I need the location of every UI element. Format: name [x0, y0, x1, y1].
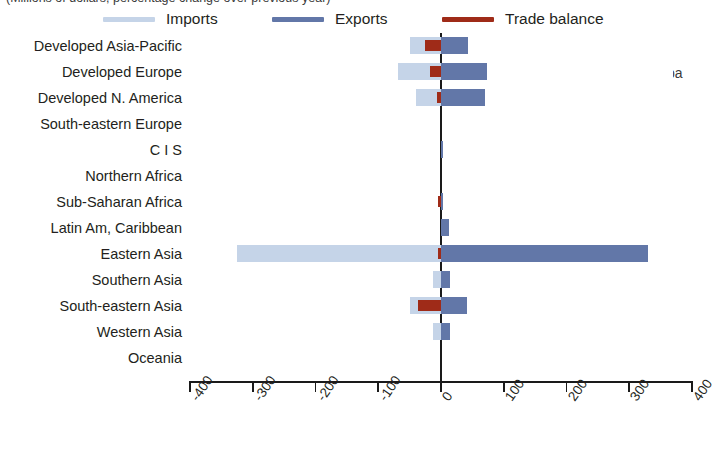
bar-exports — [441, 193, 443, 210]
bar-row — [186, 271, 703, 288]
value-axis: -400-300-200-1000100200300400 — [186, 381, 703, 449]
bar-trade-balance — [438, 248, 441, 259]
legend-item-trade-balance: Trade balance — [442, 7, 604, 31]
bar-exports — [441, 63, 487, 80]
axis-tick-label: 400 — [690, 377, 715, 404]
legend-label-imports: Imports — [166, 10, 218, 28]
category-label: South-eastern Asia — [0, 299, 182, 314]
bar-row — [186, 245, 703, 262]
bar-exports — [441, 89, 485, 106]
axis-tick-label: 0 — [439, 389, 456, 404]
category-label: Developed Asia-Pacific — [0, 39, 182, 54]
legend-swatch-trade-balance-icon — [442, 17, 494, 22]
bar-row — [186, 323, 703, 340]
bar-trade-balance — [418, 300, 441, 311]
bar-trade-balance — [438, 196, 441, 207]
bar-exports — [441, 271, 450, 288]
bar-row — [186, 37, 703, 54]
bar-row — [186, 89, 703, 106]
category-label: Northern Africa — [0, 169, 182, 184]
bar-row — [186, 167, 703, 184]
bar-exports — [441, 141, 443, 158]
bar-trade-balance — [425, 40, 441, 51]
caption-clipped: (Millions of dollars, percentage change … — [0, 0, 703, 5]
category-label: Western Asia — [0, 325, 182, 340]
bar-exports — [441, 245, 648, 262]
legend-label-exports: Exports — [335, 10, 388, 28]
bar-row — [186, 297, 703, 314]
bar-row — [186, 349, 703, 366]
category-label: Sub-Saharan Africa — [0, 195, 182, 210]
category-label: Latin Am, Caribbean — [0, 221, 182, 236]
category-label: Developed Europe — [0, 65, 182, 80]
legend-label-trade-balance: Trade balance — [505, 10, 604, 28]
bar-exports — [441, 297, 467, 314]
bar-exports — [441, 219, 449, 236]
category-label: Eastern Asia — [0, 247, 182, 262]
category-axis-labels: Developed Asia-PacificDeveloped EuropeDe… — [0, 33, 186, 381]
category-label: Oceania — [0, 351, 182, 366]
bar-exports — [441, 37, 468, 54]
caption-text: (Millions of dollars, percentage change … — [0, 0, 703, 5]
legend-item-exports: Exports — [272, 7, 388, 31]
chart-plot-area: Developed Asia-PacificDeveloped EuropeDe… — [0, 33, 703, 393]
legend-swatch-imports-icon — [103, 17, 155, 22]
bar-imports — [237, 245, 441, 262]
legend-swatch-exports-icon — [272, 17, 324, 22]
bar-row — [186, 141, 703, 158]
bar-trade-balance — [437, 92, 441, 103]
chart-legend: Imports Exports Trade balance — [0, 7, 703, 31]
bar-row — [186, 63, 703, 80]
category-label: South-eastern Europe — [0, 117, 182, 132]
category-label: C I S — [0, 143, 182, 158]
bar-imports — [433, 271, 441, 288]
legend-item-imports: Imports — [103, 7, 218, 31]
bar-row — [186, 193, 703, 210]
category-label: Southern Asia — [0, 273, 182, 288]
bar-exports — [441, 323, 450, 340]
bar-imports — [433, 323, 441, 340]
category-label: Developed N. America — [0, 91, 182, 106]
bar-row — [186, 115, 703, 132]
bars-container — [186, 33, 703, 381]
bar-row — [186, 219, 703, 236]
bar-trade-balance — [430, 66, 441, 77]
